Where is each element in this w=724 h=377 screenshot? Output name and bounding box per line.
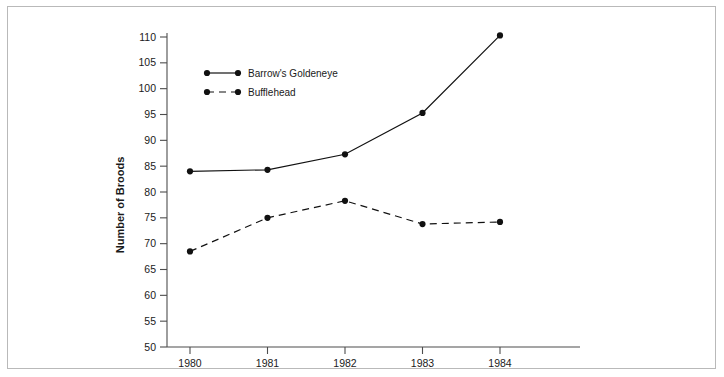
legend-marker-left: [204, 89, 210, 95]
x-tick-label: 1980: [178, 357, 202, 369]
x-tick-label: 1983: [411, 357, 435, 369]
y-tick-label: 75: [144, 211, 156, 223]
y-tick-label: 110: [139, 31, 156, 43]
series-line: [190, 35, 500, 171]
x-axis: 19801981198219831984: [167, 347, 580, 369]
figure-root: 50556065707580859095100105110 Number of …: [0, 0, 724, 377]
y-tick-label: 95: [144, 108, 156, 120]
data-point-marker: [497, 219, 503, 225]
y-tick-label: 105: [138, 56, 156, 68]
data-point-marker: [264, 215, 270, 221]
series-1: [187, 32, 503, 174]
y-axis-title: Number of Broods: [114, 157, 126, 254]
y-tick-label: 50: [144, 341, 156, 353]
data-point-marker: [419, 110, 425, 116]
legend-marker-left: [204, 70, 210, 76]
data-point-marker: [187, 248, 193, 254]
y-tick-label: 85: [144, 160, 156, 172]
data-point-marker: [187, 168, 193, 174]
y-tick-label: 100: [138, 82, 156, 94]
series-group: [187, 32, 503, 254]
y-tick-label: 90: [144, 134, 156, 146]
x-tick-group: 19801981198219831984: [178, 347, 512, 369]
line-chart: 50556065707580859095100105110 Number of …: [0, 0, 724, 377]
y-tick-group: 50556065707580859095100105110: [138, 31, 167, 353]
legend-marker-right: [235, 89, 241, 95]
data-point-marker: [497, 32, 503, 38]
legend-marker-right: [235, 70, 241, 76]
y-tick-label: 65: [144, 263, 156, 275]
data-point-marker: [264, 167, 270, 173]
y-tick-label: 70: [144, 237, 156, 249]
y-tick-label: 60: [144, 289, 156, 301]
chart-legend: Barrow's GoldeneyeBufflehead: [204, 68, 338, 98]
legend-entry: Bufflehead: [204, 87, 296, 98]
y-tick-label: 55: [144, 315, 156, 327]
legend-label: Barrow's Goldeneye: [248, 68, 338, 79]
x-tick-label: 1984: [488, 357, 512, 369]
series-line: [190, 201, 500, 252]
data-point-marker: [342, 198, 348, 204]
y-tick-label: 80: [144, 186, 156, 198]
data-point-marker: [419, 221, 425, 227]
series-2: [187, 198, 503, 255]
legend-label: Bufflehead: [248, 87, 296, 98]
y-axis: 50556065707580859095100105110 Number of …: [114, 31, 167, 353]
legend-entry: Barrow's Goldeneye: [204, 68, 338, 79]
data-point-marker: [342, 151, 348, 157]
x-tick-label: 1982: [333, 357, 357, 369]
x-tick-label: 1981: [256, 357, 280, 369]
